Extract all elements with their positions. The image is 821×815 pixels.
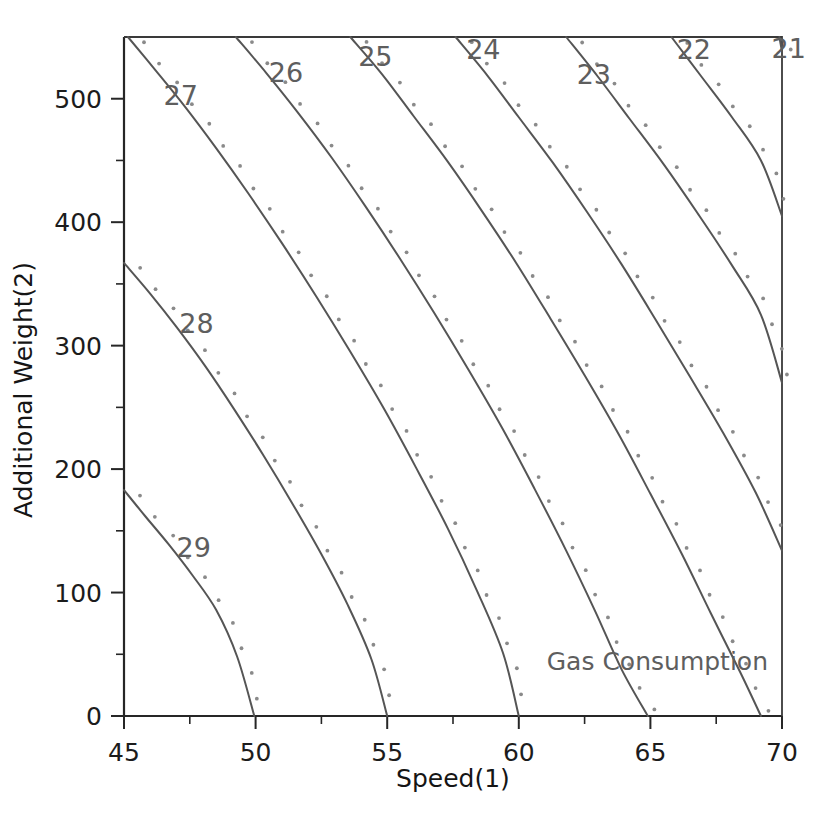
contour-marker-dot [721, 615, 725, 619]
contour-marker-dot [503, 81, 507, 85]
contour-marker-dot [429, 122, 433, 126]
contour-level-label: 22 [677, 34, 711, 65]
contour-marker-dot [497, 616, 501, 620]
contour-marker-dot [675, 165, 679, 169]
contour-marker-dot [352, 339, 356, 343]
contour-marker-dot [460, 339, 464, 343]
contour-marker-dot [490, 207, 494, 211]
contour-marker-dot [505, 641, 509, 645]
contour-marker-dot [578, 187, 582, 191]
contour-marker-dot [652, 707, 656, 711]
contour-marker-dot [690, 364, 694, 368]
contour-marker-dot [584, 568, 588, 572]
contour-marker-dot [268, 207, 272, 211]
contour-marker-dot [347, 164, 351, 168]
contour-marker-dot [708, 593, 712, 597]
contour-marker-dot [330, 144, 334, 148]
contour-marker-dot [717, 231, 721, 235]
contour-marker-dot [766, 500, 770, 504]
contour-marker-dot [626, 430, 630, 434]
contour-marker-dot [240, 646, 244, 650]
contour-marker-dot [382, 667, 386, 671]
contour-marker-dot [748, 124, 752, 128]
contour-marker-dot [238, 164, 242, 168]
contour-marker-dot [376, 207, 380, 211]
contour-marker-dot [471, 362, 475, 366]
y-axis-title: Additional Weight(2) [9, 262, 38, 518]
contour-marker-dot [325, 294, 329, 298]
contour-marker-dot [412, 103, 416, 107]
contour-marker-dot [261, 435, 265, 439]
contour-level-label: 21 [772, 33, 806, 64]
contour-marker-dot [675, 522, 679, 526]
contour-marker-dot [415, 453, 419, 457]
contour-marker-dot [217, 598, 221, 602]
contour-marker-dot [281, 230, 285, 234]
contour-marker-dot [782, 197, 786, 201]
contour-marker-dot [405, 250, 409, 254]
contour-marker-dot [453, 521, 457, 525]
contour-marker-dot [636, 454, 640, 458]
contour-marker-dot [779, 523, 783, 527]
contour-marker-dot [678, 340, 682, 344]
contour-marker-dot [460, 164, 464, 168]
contour-marker-dot [717, 82, 721, 86]
contour-marker-dot [780, 347, 784, 351]
contour-marker-dot [523, 453, 527, 457]
y-tick-label: 100 [54, 579, 102, 608]
contour-marker-dot [731, 105, 735, 109]
contour-level-label: 25 [358, 41, 392, 72]
contour-marker-dot [379, 383, 383, 387]
contour-marker-dot [340, 571, 344, 575]
contour-marker-dot [546, 295, 550, 299]
contour-marker-dot [561, 521, 565, 525]
contour-marker-dot [372, 643, 376, 647]
contour-marker-dot [731, 430, 735, 434]
y-tick-label: 400 [54, 208, 102, 237]
contour-level-label: 27 [164, 80, 198, 111]
contour-marker-dot [360, 186, 364, 190]
x-tick-label: 65 [634, 738, 666, 767]
contour-marker-dot [661, 500, 665, 504]
contour-marker-dot [298, 102, 302, 106]
contour-marker-dot [255, 697, 259, 701]
contour-marker-dot [704, 208, 708, 212]
contour-marker-dot [250, 40, 254, 44]
contour-marker-dot [350, 595, 354, 599]
contour-marker-dot [534, 123, 538, 127]
contour-marker-dot [316, 122, 320, 126]
contour-marker-dot [663, 319, 667, 323]
x-axis-title: Speed(1) [396, 764, 510, 793]
contour-marker-dot [398, 81, 402, 85]
contour-marker-dot [548, 145, 552, 149]
contour-marker-dot [203, 575, 207, 579]
contour-marker-dot [515, 666, 519, 670]
contour-marker-dot [221, 144, 225, 148]
contour-marker-dot [767, 709, 771, 713]
contour-marker-dot [445, 318, 449, 322]
contour-marker-dot [658, 145, 662, 149]
contour-marker-dot [433, 294, 437, 298]
contour-marker-dot [443, 144, 447, 148]
contour-marker-dot [245, 414, 249, 418]
contour-marker-dot [512, 429, 516, 433]
contour-marker-dot [157, 62, 161, 66]
contour-marker-dot [774, 172, 778, 176]
contour-marker-dot [651, 296, 655, 300]
contour-marker-dot [600, 385, 604, 389]
gas-consumption-annotation: Gas Consumption [547, 647, 768, 676]
contour-marker-dot [142, 40, 146, 44]
contour-plot-svg: 455055606570 0100200300400500 2928272625… [0, 0, 821, 815]
contour-level-label: 29 [177, 532, 211, 563]
contour-marker-dot [716, 408, 720, 412]
contour-marker-dot [517, 103, 521, 107]
y-tick-label: 200 [54, 455, 102, 484]
contour-marker-dot [154, 287, 158, 291]
contour-marker-dot [503, 230, 507, 234]
contour-marker-dot [594, 208, 598, 212]
contour-marker-dot [623, 251, 627, 255]
contour-marker-dot [573, 340, 577, 344]
contour-marker-dot [638, 686, 642, 690]
contour-marker-dot [216, 371, 220, 375]
contour-marker-dot [731, 639, 735, 643]
